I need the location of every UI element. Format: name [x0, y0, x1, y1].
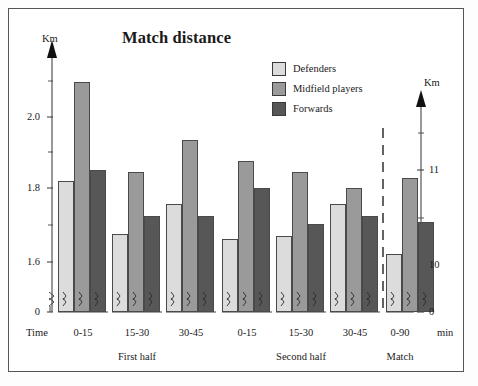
y-tick-right-11: 11 — [429, 165, 455, 176]
x-axis-unit-label: min — [437, 328, 453, 339]
y-axis-right-unit-label: Km — [424, 78, 440, 89]
chart-title: Match distance — [122, 30, 231, 47]
legend-swatch-defenders — [272, 62, 286, 76]
y-tick-left-1.6: 1.6 — [14, 257, 40, 268]
x-axis-name-label: Time — [26, 328, 48, 339]
y-tick-left-2.0: 2.0 — [14, 112, 40, 123]
chart-figure: Match distance Km Km Time min 2.0 1.8 1.… — [0, 0, 478, 386]
y-axis-left-unit-label: Km — [42, 34, 58, 45]
x-group-label-1: 0-15 — [53, 328, 113, 339]
chart-legend: Defenders Midfield players Forwards — [272, 60, 363, 120]
x-group-label-3: 30-45 — [161, 328, 221, 339]
x-group-label-4: 0-15 — [217, 328, 277, 339]
legend-label-forwards: Forwards — [293, 104, 333, 115]
legend-swatch-forwards — [272, 102, 286, 116]
y-tick-right-10: 10 — [429, 260, 455, 271]
legend-item-midfield-players: Midfield players — [272, 80, 363, 98]
x-group-label-7: 0-90 — [370, 328, 430, 339]
x-group-label-5: 15-30 — [271, 328, 331, 339]
legend-label-midfield-players: Midfield players — [293, 84, 363, 95]
legend-label-defenders: Defenders — [293, 64, 336, 75]
legend-item-defenders: Defenders — [272, 60, 363, 78]
x-section-label-second-half: Second half — [246, 352, 356, 363]
x-group-label-2: 15-30 — [107, 328, 167, 339]
y-tick-right-0: 0 — [429, 307, 455, 318]
legend-item-forwards: Forwards — [272, 100, 363, 118]
x-section-label-first-half: First half — [82, 352, 192, 363]
legend-swatch-midfield-players — [272, 82, 286, 96]
y-tick-left-1.8: 1.8 — [14, 183, 40, 194]
x-section-label-match: Match — [345, 352, 455, 363]
y-tick-left-0: 0 — [14, 307, 40, 318]
